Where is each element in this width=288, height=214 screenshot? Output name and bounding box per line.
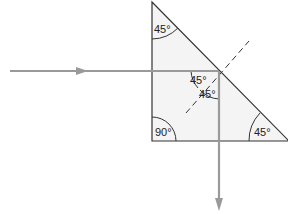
angle-label-bottom-right: 45° (254, 126, 271, 138)
angle-label-incidence: 45° (190, 74, 207, 86)
angle-label-reflection: 45° (199, 88, 216, 100)
incident-arrowhead-icon (76, 67, 88, 75)
angle-label-bottom-left: 90° (155, 126, 172, 138)
reflected-arrowhead-icon (215, 198, 223, 211)
angle-label-top: 45° (154, 23, 171, 35)
prism-diagram: 45° 45° 45° 90° 45° (0, 0, 288, 214)
